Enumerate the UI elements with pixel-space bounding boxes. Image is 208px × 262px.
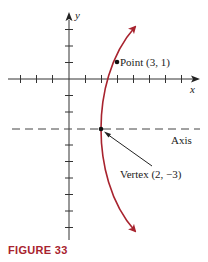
vertex-pointer-line bbox=[107, 134, 152, 166]
vertex-marker bbox=[99, 127, 104, 132]
y-axis-label: y bbox=[74, 9, 80, 21]
point-label: Point (3, 1) bbox=[120, 56, 170, 69]
x-axis-label: x bbox=[189, 83, 195, 95]
figure-caption: FIGURE 33 bbox=[8, 244, 68, 256]
y-axis: y bbox=[65, 9, 80, 240]
vertex-label: Vertex (2, −3) bbox=[120, 168, 182, 181]
y-axis-arrow-icon bbox=[66, 12, 73, 21]
point-marker bbox=[115, 60, 120, 65]
axis-label: Axis bbox=[171, 134, 192, 146]
parabola-lower-branch bbox=[101, 129, 135, 231]
parabola-diagram: x y Axis Point (3, 1) Vertex (2, −3) bbox=[0, 0, 208, 262]
